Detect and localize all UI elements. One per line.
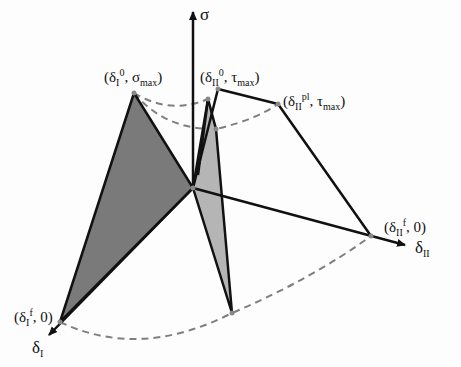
cohesive-law-diagram: σ δII δI (δI0, σmax) (δII0, τmax) (δIIpl… [0, 0, 461, 367]
sigma-axis-label: σ [200, 5, 209, 24]
label-dII0-taumax: (δII0, τmax) [200, 67, 260, 88]
delta-II-axis-label: δII [415, 238, 430, 259]
label-dIf-0: (δIf, 0) [14, 307, 53, 328]
label-dI0-sigmax: (δI0, σmax) [104, 67, 162, 88]
label-dIIpl-taumax: (δIIpl, τmax) [283, 91, 345, 112]
label-dIIf-0: (δIIf, 0) [384, 217, 426, 238]
delta-I-axis-label: δI [32, 338, 43, 359]
mixed-mode-triangle [193, 99, 232, 313]
